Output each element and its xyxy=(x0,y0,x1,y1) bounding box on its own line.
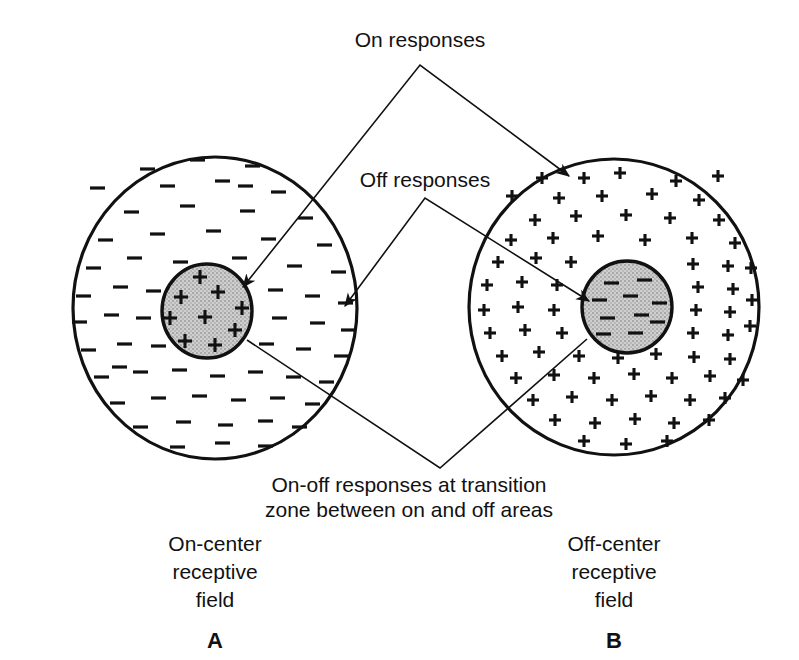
on-responses-label: On responses xyxy=(355,28,486,51)
panel-a-caption-line2: receptive xyxy=(172,560,257,583)
off-responses-label: Off responses xyxy=(360,168,490,191)
panel-a-group xyxy=(72,157,357,459)
panel-b-letter: B xyxy=(606,628,622,653)
on-off-responses-label-line2: zone between on and off areas xyxy=(265,498,553,521)
on-off-responses-label-line1: On-off responses at transition xyxy=(271,473,546,496)
panel-b-group xyxy=(469,159,759,455)
panel-a-caption-line3: field xyxy=(196,588,235,611)
panel-b-caption-line2: receptive xyxy=(571,560,656,583)
panel-b-caption-line1: Off-center xyxy=(568,532,661,555)
panel-b-center-disc xyxy=(582,261,672,353)
panel-a-letter: A xyxy=(207,628,223,653)
receptive-field-figure: On responses Off responses On-off respon… xyxy=(0,0,799,660)
panel-b-caption-line3: field xyxy=(595,588,634,611)
panel-a-caption-line1: On-center xyxy=(168,532,261,555)
receptive-field-diagram: On responses Off responses On-off respon… xyxy=(0,0,799,660)
